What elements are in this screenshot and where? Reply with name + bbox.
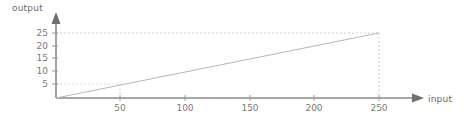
linear-transfer-function-chart: output input 25 20 15 10 5 50 100 150 20… bbox=[0, 0, 466, 124]
y-tick-label-5: 5 bbox=[24, 79, 48, 89]
x-tick-label-250: 250 bbox=[362, 103, 396, 113]
x-axis-arrow-icon bbox=[412, 94, 424, 103]
x-tick-label-50: 50 bbox=[103, 103, 137, 113]
y-tick-label-15: 15 bbox=[24, 53, 48, 63]
y-axis-arrow-icon bbox=[52, 12, 61, 24]
x-tick-label-100: 100 bbox=[168, 103, 202, 113]
x-tick-label-150: 150 bbox=[233, 103, 267, 113]
y-axis-title: output bbox=[12, 3, 43, 13]
y-tick-label-20: 20 bbox=[24, 41, 48, 51]
y-tick-marks bbox=[52, 33, 58, 84]
y-tick-label-10: 10 bbox=[24, 66, 48, 76]
y-tick-label-25: 25 bbox=[24, 28, 48, 38]
data-series-line bbox=[56, 33, 379, 98]
x-tick-label-200: 200 bbox=[297, 103, 331, 113]
x-axis-title: input bbox=[428, 94, 452, 104]
